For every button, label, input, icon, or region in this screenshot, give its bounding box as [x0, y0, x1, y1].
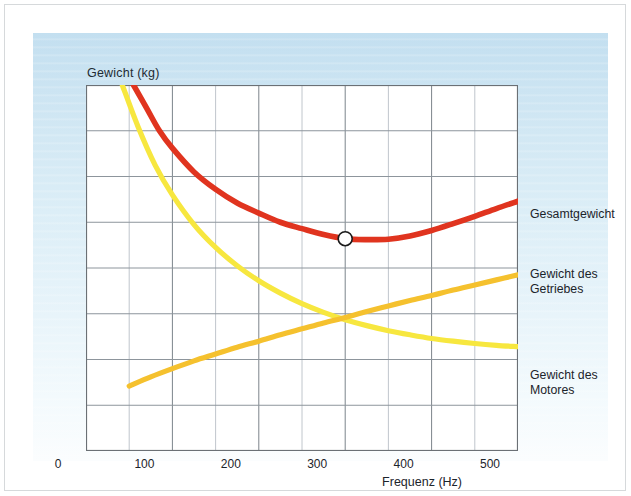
total-weight-curve — [134, 85, 518, 240]
y-axis-title: Gewicht (kg) — [87, 66, 160, 80]
figure-panel: Gewicht (kg) Gesamtgewicht Gewicht des G… — [33, 33, 608, 461]
x-axis-tick-label: 500 — [480, 457, 500, 471]
gearbox-weight-curve — [129, 275, 518, 386]
motor-weight-curve — [122, 85, 518, 347]
optimum-marker — [338, 232, 352, 246]
page-frame: Gewicht (kg) Gesamtgewicht Gewicht des G… — [4, 4, 626, 491]
plot-area — [86, 85, 518, 451]
x-axis-tick-label: 100 — [134, 457, 154, 471]
series-label-total: Gesamtgewicht — [530, 207, 615, 222]
series-label-gearbox: Gewicht des Getriebes — [530, 267, 598, 296]
x-axis-tick-label: 300 — [307, 457, 327, 471]
plot-svg — [86, 85, 518, 451]
x-axis-tick-label: 400 — [394, 457, 414, 471]
page-root: Gewicht (kg) Gesamtgewicht Gewicht des G… — [0, 0, 631, 496]
x-axis-tick-label: 0 — [55, 457, 62, 471]
x-axis-tick-label: 200 — [221, 457, 241, 471]
x-axis-title: Frequenz (Hz) — [382, 475, 462, 489]
series-label-motor: Gewicht des Motores — [530, 368, 598, 397]
